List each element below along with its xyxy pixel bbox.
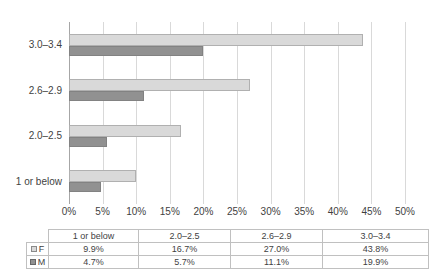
table-header-cell: 3.0–3.4 [323,230,429,243]
table-cell: 27.0% [231,243,323,256]
x-tick-label: 35% [294,206,314,217]
table-cell: 4.7% [49,256,139,269]
x-tick-label: 5% [95,206,109,217]
legend-key-m: M [27,256,49,269]
table-cell: 5.7% [139,256,231,269]
bar-groups [69,22,405,204]
chart-data-table: 1 or below 2.0–2.5 2.6–2.9 3.0–3.4 F 9.9… [26,229,429,269]
x-tick-label: 50% [395,206,415,217]
table-row-f: F 9.9% 16.7% 27.0% 43.8% [27,243,429,256]
bar-group-2.6-2.9 [69,68,405,114]
bar-group-3.0-3.4 [69,22,405,68]
f-bar [69,34,363,46]
x-tick-label: 20% [193,206,213,217]
category-label: 1 or below [0,159,62,205]
legend-key-f: F [27,243,49,256]
x-tick-label: 30% [261,206,281,217]
f-series-swatch-icon [31,246,37,252]
gridline-50pct [405,22,406,204]
x-tick-label: 0% [62,206,76,217]
m-bar [69,137,107,147]
category-label: 2.0–2.5 [0,113,62,159]
x-axis-tick-labels: 0% 5% 10% 15% 20% 25% 30% 35% 40% 45% 50… [69,206,405,220]
bar-chart: 3.0–3.4 2.6–2.9 2.0–2.5 1 or below [0,0,436,280]
table-cell: 11.1% [231,256,323,269]
table-corner-cell [27,230,49,243]
legend-label-f: F [39,244,45,254]
y-axis-category-labels: 3.0–3.4 2.6–2.9 2.0–2.5 1 or below [0,22,62,204]
x-tick-label: 45% [361,206,381,217]
table-row-m: M 4.7% 5.7% 11.1% 19.9% [27,256,429,269]
legend-label-m: M [38,257,46,267]
m-bar [69,46,203,56]
m-series-swatch-icon [30,259,36,265]
x-tick-label: 15% [160,206,180,217]
m-bar [69,182,101,192]
x-tick-label: 40% [328,206,348,217]
category-label: 3.0–3.4 [0,22,62,68]
plot-area [69,22,405,204]
bar-group-1-or-below [69,159,405,205]
f-bar [69,125,181,137]
table-header-cell: 2.6–2.9 [231,230,323,243]
table-cell: 43.8% [323,243,429,256]
table-header-cell: 2.0–2.5 [139,230,231,243]
x-tick-label: 25% [227,206,247,217]
table-cell: 16.7% [139,243,231,256]
bar-group-2.0-2.5 [69,113,405,159]
table-header-row: 1 or below 2.0–2.5 2.6–2.9 3.0–3.4 [27,230,429,243]
table-cell: 9.9% [49,243,139,256]
f-bar [69,170,136,182]
table-header-cell: 1 or below [49,230,139,243]
f-bar [69,79,250,91]
category-label: 2.6–2.9 [0,68,62,114]
table-cell: 19.9% [323,256,429,269]
m-bar [69,91,144,101]
x-tick-label: 10% [126,206,146,217]
